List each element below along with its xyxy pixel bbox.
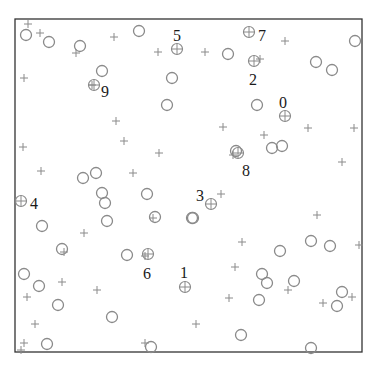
plus-point	[24, 20, 32, 28]
centroid-label: 9	[101, 83, 109, 100]
plus-point	[338, 158, 346, 166]
plus-point	[225, 294, 233, 302]
circle-markers	[19, 26, 361, 354]
circle-point	[254, 295, 265, 306]
centroid-6: 6	[143, 249, 154, 282]
circle-point	[150, 212, 161, 223]
circle-point	[289, 276, 300, 287]
plus-point	[217, 190, 225, 198]
circle-point	[102, 216, 113, 227]
centroid-4: 4	[16, 195, 39, 212]
plus-point	[80, 229, 88, 237]
circle-point	[262, 278, 273, 289]
circle-point	[311, 57, 322, 68]
centroid-label: 0	[279, 94, 287, 111]
plus-point	[36, 29, 44, 37]
plus-point	[284, 286, 292, 294]
plus-point	[58, 278, 66, 286]
centroid-0: 0	[279, 94, 291, 122]
circle-point	[325, 241, 336, 252]
plus-point	[93, 286, 101, 294]
plus-point	[238, 238, 246, 246]
centroid-label: 8	[242, 162, 250, 179]
plus-point	[31, 320, 39, 328]
circle-point	[327, 65, 338, 76]
plus-point	[120, 137, 128, 145]
circle-point	[306, 236, 317, 247]
centroid-label: 5	[173, 27, 181, 44]
circle-point	[167, 73, 178, 84]
centroid-1: 1	[180, 264, 191, 293]
circle-point	[337, 287, 348, 298]
centroid-markers: 0123456789	[16, 27, 291, 293]
plus-point	[260, 131, 268, 139]
circle-point	[78, 173, 89, 184]
centroid-label: 4	[30, 195, 38, 212]
scatter-plot: 0123456789	[0, 0, 370, 365]
circle-point	[44, 37, 55, 48]
plus-point	[112, 117, 120, 125]
plus-point	[19, 143, 27, 151]
plus-point	[313, 211, 321, 219]
plus-point	[23, 293, 31, 301]
centroid-label: 6	[143, 265, 151, 282]
centroid-7: 7	[244, 27, 267, 44]
circle-point	[277, 141, 288, 152]
plus-point	[37, 167, 45, 175]
plot-frame	[15, 19, 362, 352]
plus-markers	[17, 20, 363, 354]
plus-point	[192, 320, 200, 328]
plus-point	[281, 37, 289, 45]
circle-point	[97, 66, 108, 77]
circle-point	[267, 143, 278, 154]
centroid-label: 2	[249, 71, 257, 88]
circle-point	[91, 168, 102, 179]
plus-point	[129, 169, 137, 177]
plus-point	[20, 339, 28, 347]
circle-point	[122, 250, 133, 261]
circle-point	[350, 36, 361, 47]
plus-point	[154, 48, 162, 56]
plus-point	[348, 293, 356, 301]
circle-point	[42, 339, 53, 350]
plus-point	[17, 346, 25, 354]
plus-point	[201, 48, 209, 56]
plus-point	[110, 33, 118, 41]
plus-point	[350, 124, 358, 132]
plus-point	[304, 124, 312, 132]
plus-point	[231, 263, 239, 271]
plus-point	[72, 49, 80, 57]
circle-point	[142, 189, 153, 200]
centroid-label: 1	[180, 264, 188, 281]
circle-point	[236, 330, 247, 341]
centroid-label: 7	[258, 27, 266, 44]
plus-point	[155, 149, 163, 157]
centroid-2: 2	[249, 56, 260, 88]
circle-point	[100, 198, 111, 209]
plus-point	[141, 339, 149, 347]
circle-point	[97, 188, 108, 199]
centroid-5: 5	[172, 27, 183, 55]
centroid-label: 3	[196, 187, 204, 204]
circle-point	[107, 312, 118, 323]
circle-point	[252, 100, 263, 111]
circle-point	[19, 269, 30, 280]
circle-point	[34, 281, 45, 292]
centroid-3: 3	[196, 187, 217, 210]
circle-point	[162, 100, 173, 111]
circle-point	[37, 221, 48, 232]
plus-point	[219, 123, 227, 131]
circle-point	[332, 301, 343, 312]
plus-point	[20, 74, 28, 82]
circle-point	[21, 30, 32, 41]
circle-point	[275, 246, 286, 257]
circle-point	[57, 244, 68, 255]
circle-point	[134, 26, 145, 37]
circle-point	[53, 300, 64, 311]
circle-point	[223, 49, 234, 60]
plus-point	[319, 299, 327, 307]
